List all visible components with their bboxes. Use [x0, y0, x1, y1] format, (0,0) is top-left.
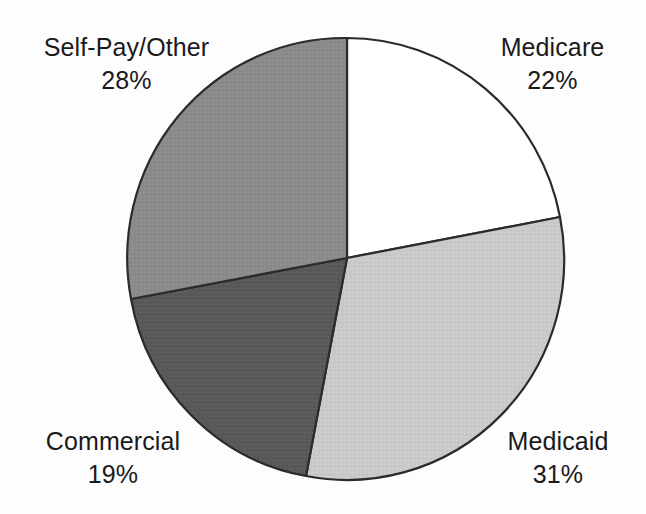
pie-label-self-pay-other-value: 28%: [14, 64, 239, 97]
pie-label-medicare: Medicare 22%: [470, 31, 635, 97]
pie-label-medicaid-value: 31%: [478, 458, 638, 491]
pie-label-commercial: Commercial 19%: [8, 425, 218, 491]
pie-label-commercial-name: Commercial: [8, 425, 218, 458]
pie-chart-screenshot: Self-Pay/Other 28% Medicare 22% Commerci…: [0, 0, 646, 514]
pie-label-commercial-value: 19%: [8, 458, 218, 491]
pie-label-medicaid: Medicaid 31%: [478, 425, 638, 491]
pie-label-medicare-value: 22%: [470, 64, 635, 97]
pie-label-medicare-name: Medicare: [470, 31, 635, 64]
pie-label-self-pay-other: Self-Pay/Other 28%: [14, 31, 239, 97]
pie-label-medicaid-name: Medicaid: [478, 425, 638, 458]
pie-label-self-pay-other-name: Self-Pay/Other: [14, 31, 239, 64]
